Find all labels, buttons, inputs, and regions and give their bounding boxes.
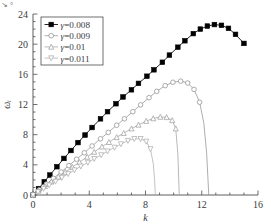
data-point-marker: [129, 126, 134, 131]
data-point-marker: [160, 60, 165, 65]
data-point-marker: [176, 45, 181, 50]
y-tick-label-5: 20: [18, 39, 28, 50]
data-point-marker: [198, 27, 203, 32]
chart-plot: 048121604812162024kωᵢγ=0.008γ=0.009γ=0.0…: [0, 0, 271, 224]
x-tick-label-4: 16: [253, 199, 263, 210]
legend-label: γ=0.011: [61, 54, 91, 64]
data-point-marker: [85, 160, 90, 165]
data-point-marker: [92, 149, 97, 154]
legend-label: γ=0.008: [61, 20, 91, 30]
data-point-marker: [121, 130, 126, 135]
data-point-marker: [136, 81, 141, 86]
y-axis-label: ωᵢ: [1, 100, 12, 109]
data-point-marker: [197, 100, 202, 105]
data-point-marker: [154, 89, 159, 94]
data-point-marker: [170, 118, 175, 123]
x-tick-label-3: 12: [197, 199, 207, 210]
data-point-marker: [242, 41, 247, 46]
data-point-marker: [76, 140, 81, 145]
data-point-marker: [92, 157, 97, 162]
legend-label: γ=0.01: [61, 42, 86, 52]
data-point-marker: [125, 138, 130, 143]
data-point-marker: [205, 24, 210, 29]
data-point-marker: [72, 168, 77, 173]
data-point-marker: [74, 157, 79, 162]
data-point-marker: [185, 81, 190, 86]
data-point-marker: [90, 144, 95, 149]
data-point-marker: [49, 33, 54, 38]
data-point-marker: [152, 68, 157, 73]
data-point-marker: [233, 32, 238, 37]
data-point-marker: [148, 147, 153, 152]
data-point-marker: [83, 133, 88, 138]
y-tick-label-3: 12: [18, 99, 28, 110]
data-point-marker: [114, 123, 119, 128]
data-point-marker: [114, 101, 119, 106]
data-point-marker: [98, 137, 103, 142]
data-point-marker: [78, 164, 83, 169]
data-point-marker: [62, 156, 67, 161]
data-point-marker: [147, 95, 152, 100]
data-point-marker: [55, 164, 60, 169]
data-point-marker: [163, 83, 168, 88]
y-tick-label-4: 16: [18, 69, 28, 80]
x-axis-label: k: [143, 212, 148, 223]
x-tick-label-1: 4: [87, 199, 92, 210]
data-point-marker: [192, 87, 197, 92]
data-point-marker: [167, 53, 172, 58]
data-point-marker: [129, 87, 134, 92]
data-point-marker: [106, 140, 111, 145]
data-point-marker: [144, 118, 149, 123]
data-point-marker: [106, 130, 111, 135]
data-point-marker: [105, 109, 110, 114]
y-tick-label-6: 24: [18, 9, 28, 20]
x-tick-label-0: 0: [31, 199, 36, 210]
y-tick-label-1: 4: [23, 159, 28, 170]
data-point-marker: [99, 144, 104, 149]
data-point-marker: [114, 135, 119, 140]
data-point-marker: [90, 125, 95, 130]
data-point-marker: [98, 117, 103, 122]
data-point-marker: [99, 153, 104, 158]
data-point-marker: [122, 117, 127, 122]
data-point-marker: [145, 74, 150, 79]
data-point-marker: [69, 148, 74, 153]
data-point-marker: [178, 79, 183, 84]
y-tick-label-0: 0: [23, 190, 28, 201]
data-point-marker: [118, 142, 123, 147]
y-tick-label-2: 8: [23, 129, 28, 140]
data-point-marker: [49, 22, 54, 27]
data-point-marker: [173, 126, 178, 131]
series-2: [31, 114, 180, 197]
data-point-marker: [121, 95, 126, 100]
data-point-marker: [136, 122, 141, 127]
data-point-marker: [67, 163, 72, 168]
data-point-marker: [191, 31, 196, 36]
legend-label: γ=0.009: [61, 31, 91, 41]
data-point-marker: [144, 139, 149, 144]
data-point-marker: [226, 26, 231, 31]
x-tick-label-2: 8: [143, 199, 148, 210]
data-point-marker: [171, 80, 176, 85]
data-point-marker: [112, 145, 117, 150]
figure-canvas: ↘ ° 048121604812162024kωᵢγ=0.008γ=0.009γ…: [0, 0, 271, 224]
data-point-marker: [212, 22, 217, 27]
data-point-marker: [105, 149, 110, 154]
data-point-marker: [82, 150, 87, 155]
data-point-marker: [183, 38, 188, 43]
data-point-marker: [138, 103, 143, 108]
data-point-marker: [219, 23, 224, 28]
data-point-marker: [131, 109, 136, 114]
